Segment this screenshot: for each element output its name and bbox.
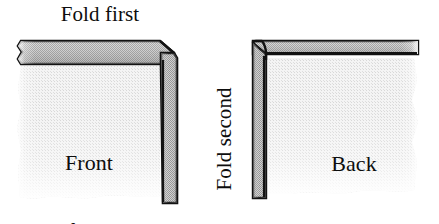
- front-label-line-2: of quilt: [14, 220, 164, 224]
- front-label-line-1: Front: [14, 152, 164, 175]
- fold-first-label: Fold first: [0, 4, 200, 26]
- back-label-line-2: of quilt: [284, 221, 424, 224]
- back-of-quilt-label: Back of quilt: [284, 107, 424, 224]
- front-flap-left-fade: [18, 41, 55, 64]
- quilt-folding-diagram: Fold first Fold second Front of quilt Ba…: [0, 0, 439, 224]
- fold-second-label: Fold second: [214, 59, 236, 219]
- back-label-line-1: Back: [284, 153, 424, 176]
- front-of-quilt-label: Front of quilt: [14, 106, 164, 224]
